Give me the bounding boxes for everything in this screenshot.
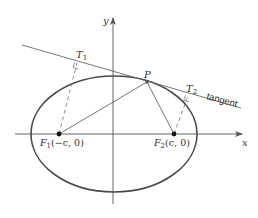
point-p — [145, 80, 149, 84]
label-f1: F1(−c, 0) — [39, 137, 84, 150]
label-tangent: tangent — [205, 90, 239, 109]
x-axis-label: x — [242, 137, 248, 148]
focus-f1-point — [57, 132, 62, 137]
focal-radius-f1-p — [59, 82, 147, 134]
focus-f2-point — [172, 132, 177, 137]
perpendicular-f1-t1 — [59, 63, 77, 134]
label-t1: T1 — [76, 49, 87, 62]
diagram-canvas: y x T1 T2 P tangent F1(−c, 0) F2(c, 0) — [0, 0, 258, 218]
right-angle-marker-t1 — [73, 62, 78, 69]
label-p: P — [143, 69, 151, 80]
perpendicular-f2-t2 — [174, 96, 188, 134]
ellipse-tangent-diagram: y x T1 T2 P tangent F1(−c, 0) F2(c, 0) — [0, 0, 258, 218]
focal-radius-f2-p — [147, 82, 174, 134]
label-f2: F2(c, 0) — [153, 137, 190, 150]
y-axis-label: y — [102, 15, 109, 26]
right-angle-marker-t2 — [184, 95, 189, 102]
